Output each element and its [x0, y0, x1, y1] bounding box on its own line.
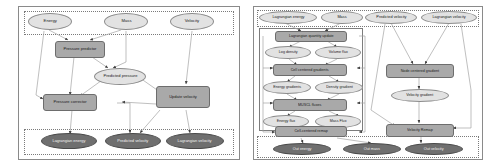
- node-velocity-remap[interactable]: Velocity Remap: [386, 124, 454, 137]
- node-log-density[interactable]: Log density: [265, 46, 311, 59]
- node-cell-centered-remap-label: Cell-centered remap: [294, 130, 327, 134]
- node-velocity-gradient[interactable]: Velocity gradient: [391, 89, 449, 102]
- node-energy[interactable]: Energy: [28, 13, 72, 30]
- node-predicted-velocity-out-label: Predicted velocity: [118, 139, 149, 143]
- node-muscl-fluxes-label: MUSCL fluxes: [298, 103, 321, 107]
- node-lagrangian-velocity-out-label: Lagrangian velocity: [178, 139, 212, 143]
- node-out-energy-label: Out energy: [293, 147, 312, 151]
- node-lagrangian-velocity-out[interactable]: Lagrangian velocity: [166, 133, 224, 149]
- node-pressure-predictor-label: Pressure predictor: [63, 47, 96, 51]
- node-energy-gradients[interactable]: Energy gradients: [263, 81, 311, 94]
- node-update-velocity[interactable]: Update velocity: [156, 86, 210, 108]
- node-out-energy[interactable]: Out energy: [273, 143, 331, 155]
- node-cell-centered-gradients[interactable]: Cell centered gradients: [273, 64, 347, 76]
- diagram-canvas: Energy Mass Velocity Pressure predictor …: [0, 0, 491, 166]
- node-cell-centered-gradients-label: Cell centered gradients: [291, 68, 329, 72]
- node-mass-label: Mass: [121, 19, 131, 23]
- node-in-predicted-velocity-label: Predicted velocity: [376, 16, 406, 20]
- node-in-mass-label: Mass: [337, 16, 346, 20]
- right-panel-remap: Lagrangian energy Mass Predicted velocit…: [245, 0, 491, 166]
- node-in-lagrangian-velocity[interactable]: Lagrangian velocity: [421, 11, 477, 24]
- node-lagrangian-quantity-update[interactable]: Lagrangian quantity update: [275, 31, 347, 42]
- node-pressure-predictor[interactable]: Pressure predictor: [55, 41, 105, 58]
- node-in-mass[interactable]: Mass: [321, 11, 363, 24]
- node-lagrangian-energy-out-label: Lagrangian energy: [53, 139, 86, 143]
- node-in-lagrangian-energy-label: Lagrangian energy: [272, 16, 304, 20]
- node-volume-flux-label: Volume flux: [328, 51, 347, 55]
- node-cell-centered-remap[interactable]: Cell-centered remap: [275, 126, 347, 137]
- node-velocity[interactable]: Velocity: [170, 13, 214, 30]
- left-panel-lagrangian: Energy Mass Velocity Pressure predictor …: [0, 0, 245, 166]
- node-node-centered-gradient[interactable]: Node centered gradient: [386, 64, 454, 78]
- node-in-predicted-velocity[interactable]: Predicted velocity: [365, 11, 417, 24]
- node-predicted-velocity-out[interactable]: Predicted velocity: [105, 133, 161, 149]
- node-density-gradient[interactable]: Density gradient: [315, 81, 363, 94]
- node-update-velocity-label: Update velocity: [169, 95, 197, 99]
- node-in-lagrangian-velocity-label: Lagrangian velocity: [432, 16, 465, 20]
- node-volume-flux[interactable]: Volume flux: [315, 46, 361, 59]
- node-predicted-pressure[interactable]: Predicted pressure: [94, 68, 146, 85]
- node-pressure-corrector-label: Pressure corrector: [53, 100, 86, 104]
- node-energy-label: Energy: [43, 19, 56, 23]
- node-velocity-gradient-label: Velocity gradient: [406, 94, 433, 98]
- node-lagrangian-quantity-update-label: Lagrangian quantity update: [289, 35, 334, 39]
- node-pressure-corrector[interactable]: Pressure corrector: [43, 94, 97, 111]
- node-energy-flux-label: Energy flux: [277, 120, 295, 124]
- node-mass[interactable]: Mass: [104, 13, 148, 30]
- node-velocity-remap-label: Velocity Remap: [407, 129, 433, 133]
- node-density-gradient-label: Density gradient: [326, 86, 353, 90]
- node-lagrangian-energy-out[interactable]: Lagrangian energy: [41, 133, 97, 149]
- node-mass-flux-label: Mass Flux: [330, 120, 347, 124]
- node-in-lagrangian-energy[interactable]: Lagrangian energy: [259, 11, 317, 24]
- node-node-centered-gradient-label: Node centered gradient: [401, 69, 439, 73]
- node-out-mass-label: Out mass: [364, 147, 380, 151]
- node-muscl-fluxes[interactable]: MUSCL fluxes: [273, 99, 347, 111]
- node-out-mass[interactable]: Out mass: [343, 143, 401, 155]
- node-out-velocity-label: Out velocity: [424, 147, 444, 151]
- node-log-density-label: Log density: [279, 51, 298, 55]
- node-out-velocity[interactable]: Out velocity: [405, 143, 463, 155]
- node-predicted-pressure-label: Predicted pressure: [103, 74, 137, 78]
- node-velocity-label: Velocity: [185, 19, 200, 23]
- node-energy-gradients-label: Energy gradients: [273, 86, 301, 90]
